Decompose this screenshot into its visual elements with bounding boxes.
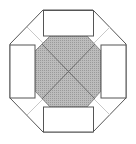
right-rectangle bbox=[101, 45, 126, 98]
left-rectangle bbox=[10, 45, 35, 98]
octagon-diagram bbox=[0, 0, 136, 144]
bottom-rectangle bbox=[44, 107, 94, 132]
top-rectangle bbox=[44, 11, 94, 37]
